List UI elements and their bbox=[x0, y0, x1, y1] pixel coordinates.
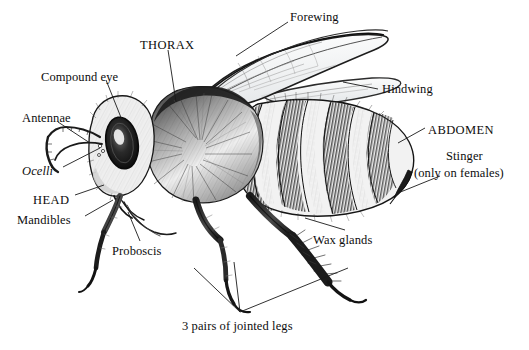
label-hindwing: Hindwing bbox=[382, 82, 433, 96]
label-ocelli: Ocelli bbox=[22, 164, 53, 178]
label-stinger: Stinger bbox=[446, 149, 483, 163]
label-stinger-note: (only on females) bbox=[414, 166, 504, 180]
label-mandibles: Mandibles bbox=[17, 213, 71, 227]
label-jointed-legs: 3 pairs of jointed legs bbox=[182, 319, 293, 333]
label-proboscis: Proboscis bbox=[112, 244, 162, 258]
head-leader bbox=[75, 185, 104, 195]
waxglands-leader bbox=[305, 218, 345, 230]
label-wax-glands: Wax glands bbox=[313, 233, 372, 247]
label-thorax: THORAX bbox=[140, 38, 194, 52]
label-abdomen: ABDOMEN bbox=[428, 123, 494, 137]
label-forewing: Forewing bbox=[290, 10, 339, 24]
head-shape bbox=[87, 91, 154, 200]
mandibles-leader bbox=[85, 200, 113, 216]
mouthparts-shape bbox=[114, 196, 176, 236]
abdomen-shape bbox=[235, 92, 413, 222]
legs-leader-3 bbox=[240, 268, 348, 312]
label-antennae: Antennae bbox=[22, 111, 71, 125]
label-head: HEAD bbox=[33, 193, 69, 207]
thorax-shape bbox=[147, 86, 263, 204]
label-compound-eye: Compound eye bbox=[41, 70, 118, 84]
legs-leader-1 bbox=[194, 268, 240, 312]
bee-anatomy-figure: Forewing THORAX Hindwing Compound eye An… bbox=[0, 0, 529, 350]
